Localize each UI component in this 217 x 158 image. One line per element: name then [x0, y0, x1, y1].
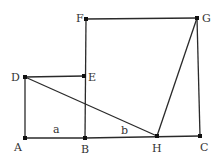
point-H: [155, 134, 159, 138]
point-E: [82, 74, 86, 78]
label-A: A: [13, 141, 23, 154]
segment-label-b: b: [121, 124, 128, 137]
point-D: [23, 75, 27, 79]
segment-HG: [157, 18, 197, 136]
segment-GC: [197, 18, 200, 136]
segment-DH: [25, 77, 157, 136]
label-E: E: [88, 71, 96, 84]
label-F: F: [76, 12, 84, 25]
label-C: C: [200, 141, 208, 154]
point-C: [198, 134, 202, 138]
points: [23, 16, 202, 140]
segment-FG: [86, 18, 197, 19]
point-A: [23, 136, 27, 140]
segment-label-a: a: [53, 123, 60, 136]
segment-FB: [85, 19, 86, 138]
segment-BC: [85, 136, 200, 138]
label-B: B: [81, 143, 89, 156]
segment-DE: [25, 76, 84, 77]
geometry-diagram: A B C D E F G H a b: [0, 0, 217, 158]
point-G: [195, 16, 199, 20]
label-H: H: [152, 142, 162, 155]
segments: [25, 18, 200, 138]
segment-labels: a b: [53, 123, 128, 137]
point-F: [84, 17, 88, 21]
label-G: G: [202, 12, 211, 25]
label-D: D: [11, 71, 20, 84]
point-B: [83, 136, 87, 140]
